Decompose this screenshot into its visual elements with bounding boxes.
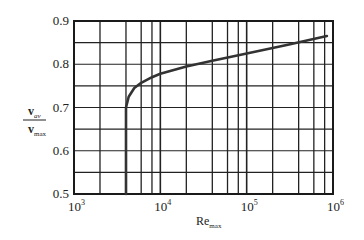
y-tick-label: 0.7 <box>53 100 70 115</box>
y-tick-label: 0.5 <box>53 186 69 201</box>
y-axis-tick-labels: 0.50.60.70.80.9 <box>53 13 70 201</box>
svg-text:vav: vav <box>28 104 42 120</box>
x-tick-label: 106 <box>327 198 344 214</box>
grid-lines <box>74 21 333 194</box>
x-axis-label: Remax <box>196 214 222 230</box>
x-tick-label: 104 <box>154 198 171 214</box>
y-axis-label: vav vmax <box>23 104 47 138</box>
x-tick-label: 105 <box>241 198 258 214</box>
chart: 0.50.60.70.80.9 103104105106 vav vmax Re… <box>0 0 364 240</box>
y-tick-label: 0.9 <box>53 13 69 28</box>
x-axis-tick-labels: 103104105106 <box>68 198 344 214</box>
data-series-line <box>126 36 327 194</box>
svg-text:vmax: vmax <box>28 122 47 138</box>
y-tick-label: 0.8 <box>53 56 69 71</box>
y-tick-label: 0.6 <box>53 143 70 158</box>
x-tick-label: 103 <box>68 198 85 214</box>
svg-text:Remax: Remax <box>196 214 222 230</box>
